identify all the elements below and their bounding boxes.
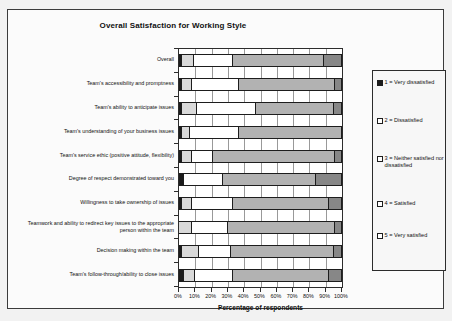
bar-segment-5[interactable] xyxy=(329,269,342,282)
x-axis-tick xyxy=(178,288,179,292)
x-axis-tick xyxy=(227,288,228,292)
x-axis-tick xyxy=(325,288,326,292)
bar-segment-4[interactable] xyxy=(228,221,336,234)
legend-label: 1 = Very dissatisfied xyxy=(385,79,435,86)
x-axis-tick-label: 40% xyxy=(238,293,249,299)
legend-swatch-icon xyxy=(377,201,383,207)
bar-row xyxy=(179,173,342,186)
legend-item-1[interactable]: 1 = Very dissatisfied xyxy=(377,79,445,86)
legend-swatch-icon xyxy=(377,156,383,162)
bar-segment-3[interactable] xyxy=(194,54,233,67)
legend-item-5[interactable]: 5 = Very satisfied xyxy=(377,232,445,239)
bar-segment-5[interactable] xyxy=(316,173,342,186)
bar-segment-3[interactable] xyxy=(199,245,232,258)
category-label: Teamwork and ability to redirect key iss… xyxy=(18,220,178,234)
y-axis-tick xyxy=(174,238,178,239)
stacked-bar[interactable] xyxy=(179,78,342,91)
bar-segment-2[interactable] xyxy=(182,245,198,258)
bar-segment-4[interactable] xyxy=(233,269,329,282)
y-axis-tick xyxy=(174,286,178,287)
x-axis-tick-labels: 0%10%20%30%40%50%60%70%80%90%100% xyxy=(178,293,343,303)
y-axis-tick xyxy=(174,262,178,263)
legend-item-3[interactable]: 3 = Neither satisfied nor dissatisfied xyxy=(377,155,445,169)
bar-segment-4[interactable] xyxy=(223,173,316,186)
category-label: Willingness to take ownership of issues xyxy=(18,199,178,206)
bar-segment-2[interactable] xyxy=(182,54,193,67)
bar-segment-3[interactable] xyxy=(192,78,239,91)
bar-segment-5[interactable] xyxy=(324,54,342,67)
bar-segment-4[interactable] xyxy=(213,150,335,163)
chart-title: Overall Satisfaction for Working Style xyxy=(8,21,338,30)
bar-segment-4[interactable] xyxy=(256,102,334,115)
stacked-bar[interactable] xyxy=(179,221,342,234)
x-axis-tick-label: 60% xyxy=(270,293,281,299)
bar-segment-4[interactable] xyxy=(239,126,342,139)
stacked-bar[interactable] xyxy=(179,173,342,186)
bar-segment-3[interactable] xyxy=(190,126,239,139)
x-axis-tick xyxy=(211,288,212,292)
chart-figure: Overall Satisfaction for Working Style O… xyxy=(0,0,452,321)
bar-segment-5[interactable] xyxy=(334,245,342,258)
bar-segment-5[interactable] xyxy=(334,102,342,115)
x-axis-tick-label: 10% xyxy=(189,293,200,299)
bar-segment-2[interactable] xyxy=(182,78,192,91)
legend-item-4[interactable]: 4 = Satisfied xyxy=(377,200,445,207)
stacked-bar[interactable] xyxy=(179,269,342,282)
category-label: Team's understanding of your business is… xyxy=(18,128,178,135)
stacked-bar[interactable] xyxy=(179,150,342,163)
bar-segment-2[interactable] xyxy=(179,221,192,234)
bar-segment-4[interactable] xyxy=(233,197,329,210)
x-axis-tick-label: 70% xyxy=(287,293,298,299)
bar-segment-4[interactable] xyxy=(231,245,334,258)
category-label: Degree of respect demonstrated toward yo… xyxy=(18,175,178,182)
stacked-bar[interactable] xyxy=(179,54,342,67)
legend-label: 5 = Very satisfied xyxy=(385,232,428,239)
y-axis-tick xyxy=(174,215,178,216)
bar-row xyxy=(179,54,342,67)
bar-segment-3[interactable] xyxy=(192,150,213,163)
y-axis-tick xyxy=(174,143,178,144)
bar-row xyxy=(179,221,342,234)
x-axis-tick-label: 100% xyxy=(334,293,348,299)
bar-segment-5[interactable] xyxy=(329,197,342,210)
stacked-bar[interactable] xyxy=(179,126,342,139)
stacked-bars xyxy=(179,49,342,287)
bar-segment-3[interactable] xyxy=(192,197,233,210)
y-axis-tick xyxy=(174,191,178,192)
stacked-bar[interactable] xyxy=(179,102,342,115)
bar-row xyxy=(179,78,342,91)
x-axis-tick xyxy=(341,288,342,292)
bar-segment-3[interactable] xyxy=(184,173,223,186)
legend-label: 2 = Dissatisfied xyxy=(385,117,423,124)
x-axis-tick xyxy=(276,288,277,292)
stacked-bar[interactable] xyxy=(179,245,342,258)
x-axis-tick-label: 90% xyxy=(319,293,330,299)
x-axis-tick-label: 80% xyxy=(303,293,314,299)
legend-label: 3 = Neither satisfied nor dissatisfied xyxy=(385,155,446,169)
bar-segment-2[interactable] xyxy=(182,102,197,115)
bar-segment-5[interactable] xyxy=(335,221,342,234)
bar-segment-3[interactable] xyxy=(197,102,256,115)
bar-segment-2[interactable] xyxy=(182,150,192,163)
bar-segment-4[interactable] xyxy=(239,78,335,91)
bar-segment-2[interactable] xyxy=(182,126,190,139)
category-label: Team's accessibility and promptness xyxy=(18,80,178,87)
bar-row xyxy=(179,102,342,115)
x-axis-tick-label: 50% xyxy=(254,293,265,299)
legend-swatch-icon xyxy=(377,80,383,86)
category-axis-labels: OverallTeam's accessibility and promptne… xyxy=(13,48,178,288)
legend-swatch-icon xyxy=(377,233,383,239)
bar-segment-3[interactable] xyxy=(195,269,232,282)
bar-segment-2[interactable] xyxy=(184,269,195,282)
legend-item-2[interactable]: 2 = Dissatisfied xyxy=(377,117,445,124)
bar-segment-5[interactable] xyxy=(335,150,342,163)
bar-segment-4[interactable] xyxy=(233,54,324,67)
bar-segment-3[interactable] xyxy=(192,221,228,234)
bar-segment-2[interactable] xyxy=(182,197,192,210)
category-label: Team's ability to anticipate issues xyxy=(18,104,178,111)
x-axis-title: Percentage of respondents xyxy=(178,304,343,311)
stacked-bar[interactable] xyxy=(179,197,342,210)
bar-row xyxy=(179,126,342,139)
bar-segment-5[interactable] xyxy=(335,78,342,91)
bar-row xyxy=(179,197,342,210)
